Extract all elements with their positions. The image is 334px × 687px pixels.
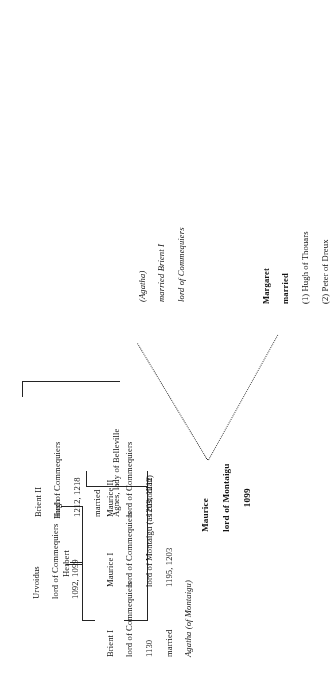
brient-ii-married: married bbox=[93, 429, 103, 517]
brient-ii-dates: 1212, 1218 bbox=[73, 429, 83, 517]
maurice-i-dates: 1195, 1203 bbox=[165, 475, 175, 587]
margaret-spouse-2: (2) Peter of Dreux bbox=[321, 231, 331, 304]
herbert-name: Herbert bbox=[62, 550, 72, 577]
agatha-title: lord of Commequiers bbox=[177, 227, 187, 302]
brient-i-spouse: Agatha (of Montaigu) bbox=[184, 580, 194, 657]
brient-i-title: lord of Commequiers bbox=[125, 580, 135, 657]
node-margaret: Margaret married (1) Hugh of Thouars (2)… bbox=[252, 231, 334, 304]
urvoidus-name: Urvoidus bbox=[32, 524, 42, 599]
margaret-spouse-1: (1) Hugh of Thouars bbox=[301, 231, 311, 304]
node-herbert: Herbert bbox=[52, 550, 81, 577]
node-brient-i: Brient I lord of Commequiers 1130 marrie… bbox=[96, 580, 204, 657]
margaret-name: Margaret bbox=[262, 231, 272, 304]
maurice-ii-dates: 1203, 1212 bbox=[145, 442, 155, 517]
maurice-montaigu-name: Maurice bbox=[200, 464, 210, 532]
maurice-montaigu-dates: 1099 bbox=[242, 464, 252, 532]
maurice-montaigu-title: lord of Montaigu bbox=[221, 464, 231, 532]
connector-tick-brient-i bbox=[82, 620, 95, 621]
connector-brient-ii-descent bbox=[22, 381, 120, 382]
node-agatha-branch: (Agatha) married Brient I lord of Commeq… bbox=[128, 227, 197, 302]
connector-brient-ii-descent-arm bbox=[22, 381, 23, 397]
brient-i-dates: 1130 bbox=[145, 580, 155, 657]
brient-i-married: married bbox=[165, 580, 175, 657]
agatha-married: married Brient I bbox=[157, 227, 167, 302]
connector-montaigu-lower-arm bbox=[208, 335, 278, 461]
node-brient-ii: Brient II lord of Commequiers 1212, 1218… bbox=[24, 429, 132, 517]
brient-ii-name: Brient II bbox=[34, 429, 44, 517]
brient-ii-spouse: Agnes, lady of Belleville bbox=[112, 429, 122, 517]
margaret-married: married bbox=[281, 231, 291, 304]
brient-i-name: Brient I bbox=[106, 580, 116, 657]
agatha-name: (Agatha) bbox=[138, 227, 148, 302]
brient-ii-title: lord of Commequiers bbox=[53, 429, 63, 517]
node-maurice-of-montaigu: Maurice lord of Montaigu 1099 bbox=[190, 464, 263, 532]
